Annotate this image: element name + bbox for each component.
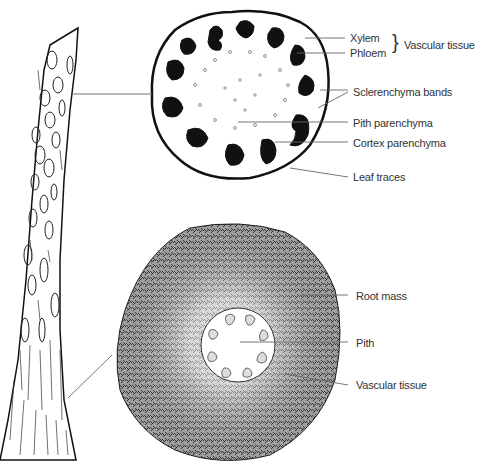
label-pith-parenchyma: Pith parenchyma (353, 117, 433, 129)
label-root-mass: Root mass (356, 290, 407, 302)
diagram-canvas (0, 0, 484, 471)
label-cortex-parenchyma: Cortex parenchyma (353, 137, 446, 149)
label-vascular-tissue: Vascular tissue (356, 379, 427, 391)
label-phloem: Phloem (350, 47, 386, 59)
trunk-illustration (0, 28, 78, 460)
label-vascular-tissue-group: Vascular tissue (404, 39, 475, 51)
stem-cross-section (152, 11, 329, 179)
label-xylem: Xylem (350, 32, 380, 44)
label-leaf-traces: Leaf traces (353, 171, 405, 183)
label-pith: Pith (356, 337, 374, 349)
brace-icon: } (392, 32, 399, 52)
label-sclerenchyma-bands: Sclerenchyma bands (353, 86, 452, 98)
